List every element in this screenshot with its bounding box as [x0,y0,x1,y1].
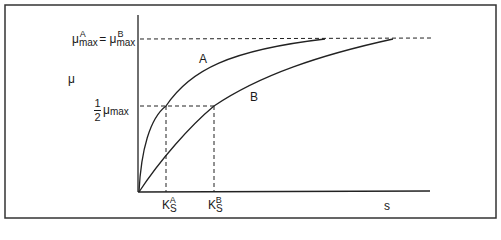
mu-max-label: μmaxA = μmaxB [72,33,123,45]
curve-b [139,39,393,192]
s-axis-label: s [384,200,390,212]
curve-a [139,39,325,192]
curve-b-label: B [250,91,258,103]
ks-a-label: KSA [162,199,176,211]
x-axis [138,191,430,192]
ks-b-label: KSB [208,199,222,211]
curve-a-label: A [199,53,207,65]
mu-max-dashed-line [140,38,432,39]
half-mu-max-label: 12μmax [94,98,129,123]
mu-axis-label: μ [68,73,75,85]
